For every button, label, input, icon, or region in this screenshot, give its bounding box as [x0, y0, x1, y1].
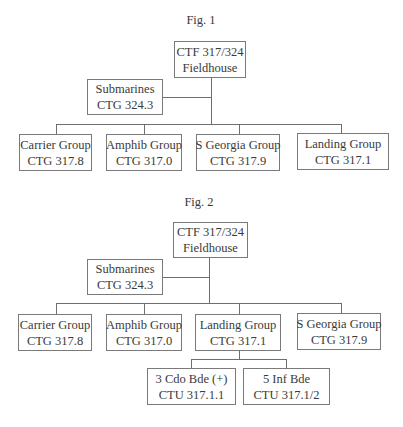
box-line1: S Georgia Group [296, 316, 381, 332]
fig1-landing-box: Landing Group CTG 317.1 [297, 133, 389, 170]
fig2-3cdo-box: 3 Cdo Bde (+) CTU 317.1.1 [147, 368, 236, 405]
box-line1: Submarines [95, 81, 154, 97]
box-line2: CTG 317.1 [210, 333, 266, 349]
box-line1: Amphib Group [106, 317, 182, 333]
fig2-root-trunk [209, 257, 210, 304]
fig2-drop-4 [341, 303, 342, 313]
box-line1: Landing Group [305, 136, 382, 152]
box-line1: CTF 317/324 [176, 44, 243, 60]
box-line2: CTG 324.3 [97, 97, 153, 113]
fig2-sub-bus [191, 359, 287, 360]
box-line2: CTU 317.1.1 [159, 387, 225, 403]
fig1-sgeorgia-box: S Georgia Group CTG 317.9 [196, 134, 280, 171]
box-line1: S Georgia Group [195, 137, 280, 153]
fig2-landing-box: Landing Group CTG 317.1 [195, 314, 281, 351]
fig2-label: Fig. 2 [169, 195, 229, 210]
fig2-submarines-box: Submarines CTG 324.3 [87, 259, 163, 295]
fig2-sub-drop-1 [191, 359, 192, 368]
box-line1: Submarines [95, 261, 154, 277]
fig1-amphib-box: Amphib Group CTG 317.0 [106, 134, 182, 171]
fig1-drop-4 [341, 124, 342, 133]
box-line2: CTG 317.9 [210, 153, 266, 169]
fig2-side-connector [163, 277, 209, 278]
box-line2: CTG 317.0 [116, 153, 172, 169]
box-line2: Fieldhouse [183, 60, 238, 76]
fig2-carrier-box: Carrier Group CTG 317.8 [18, 314, 92, 351]
fig1-bus [56, 124, 342, 125]
box-line2: CTG 317.1 [315, 152, 371, 168]
box-line2: CTG 317.0 [116, 333, 172, 349]
fig1-root-trunk [211, 78, 212, 125]
box-line2: CTU 317.1/2 [254, 387, 320, 403]
box-line1: 3 Cdo Bde (+) [156, 371, 228, 387]
fig2-5inf-box: 5 Inf Bde CTU 317.1/2 [243, 368, 330, 405]
fig2-drop-1 [56, 303, 57, 314]
fig2-amphib-box: Amphib Group CTG 317.0 [106, 314, 182, 351]
box-line2: CTG 317.8 [27, 333, 83, 349]
fig2-landing-trunk [239, 350, 240, 359]
fig1-carrier-box: Carrier Group CTG 317.8 [19, 134, 92, 171]
fig1-label: Fig. 1 [171, 13, 231, 28]
fig2-sub-drop-2 [286, 359, 287, 368]
box-line1: Amphib Group [106, 137, 182, 153]
box-line1: CTF 317/324 [177, 224, 244, 240]
box-line2: CTG 317.9 [311, 332, 367, 348]
fig2-drop-2 [144, 303, 145, 314]
box-line1: Carrier Group [20, 317, 90, 333]
fig2-sgeorgia-box: S Georgia Group CTG 317.9 [297, 313, 381, 350]
fig1-root-box: CTF 317/324 Fieldhouse [174, 41, 246, 78]
box-line2: CTG 317.8 [27, 153, 83, 169]
fig1-drop-3 [239, 124, 240, 134]
box-line2: CTG 324.3 [97, 277, 153, 293]
fig2-bus [56, 303, 342, 304]
fig1-side-connector [163, 97, 211, 98]
box-line2: Fieldhouse [183, 240, 238, 256]
box-line1: 5 Inf Bde [263, 371, 310, 387]
fig1-drop-1 [56, 124, 57, 134]
box-line1: Carrier Group [20, 137, 90, 153]
fig1-submarines-box: Submarines CTG 324.3 [87, 79, 163, 115]
box-line1: Landing Group [200, 317, 277, 333]
fig1-drop-2 [144, 124, 145, 134]
fig2-drop-3 [239, 303, 240, 314]
fig2-root-box: CTF 317/324 Fieldhouse [173, 222, 248, 258]
